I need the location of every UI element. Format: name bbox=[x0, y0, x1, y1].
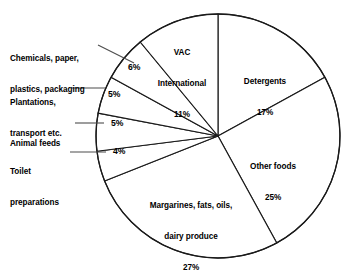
slice-label-line1: Chemicals, paper, bbox=[10, 54, 105, 64]
slice-label-toilet-preparations: Toilet preparations bbox=[10, 146, 90, 229]
pie-chart: VAC International 11% Detergents 17% Oth… bbox=[0, 0, 357, 274]
slice-label-line1: VAC bbox=[132, 48, 232, 58]
slice-percent-chemicals: 6% bbox=[128, 62, 140, 72]
slice-label-line1: Margarines, fats, oils, bbox=[128, 201, 254, 211]
slice-label-line1: Toilet bbox=[10, 167, 90, 177]
slice-label-line1: Plantations, bbox=[10, 98, 95, 108]
slice-percent-animal-feeds: 5% bbox=[111, 118, 123, 128]
slice-label-line2: dairy produce bbox=[128, 232, 254, 242]
slice-percent-toilet-preparations: 4% bbox=[113, 146, 125, 156]
slice-label-percent: 27% bbox=[128, 263, 254, 273]
slice-label-line1: Other foods bbox=[232, 162, 314, 172]
slice-percent-plantations: 5% bbox=[108, 89, 120, 99]
slice-label-line2: International bbox=[132, 79, 232, 89]
slice-label-detergents: Detergents 17% bbox=[224, 56, 306, 139]
slice-label-percent: 17% bbox=[224, 108, 306, 118]
slice-label-margarines: Margarines, fats, oils, dairy produce 27… bbox=[128, 180, 254, 274]
slice-label-percent: 11% bbox=[132, 110, 232, 120]
slice-label-line2: preparations bbox=[10, 198, 90, 208]
slice-label-line1: Detergents bbox=[224, 77, 306, 87]
slice-label-vac-international: VAC International 11% bbox=[132, 27, 232, 141]
